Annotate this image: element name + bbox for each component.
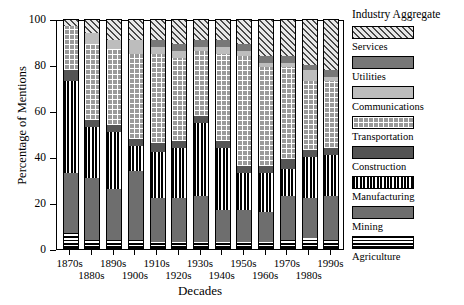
bar-segment-utilities[interactable] (171, 44, 187, 51)
bar-segment-construction[interactable] (106, 125, 122, 132)
bar-segment-services[interactable] (84, 19, 100, 33)
bar-segment-agriculture[interactable] (302, 238, 318, 250)
bar-segment-transportation[interactable] (171, 58, 187, 141)
bar-segment-communications[interactable] (323, 77, 339, 82)
bar-segment-communications[interactable] (171, 51, 187, 58)
bar-segment-services[interactable] (215, 19, 231, 40)
bar-segment-construction[interactable] (128, 139, 144, 146)
bar-segment-mining[interactable] (150, 198, 166, 242)
bar-segment-transportation[interactable] (193, 51, 209, 115)
bar-segment-transportation[interactable] (258, 67, 274, 166)
bar-segment-manufacturing[interactable] (128, 146, 144, 171)
bar-segment-services[interactable] (323, 19, 339, 70)
bar-1990s[interactable] (323, 21, 339, 249)
bar-segment-mining[interactable] (171, 198, 187, 242)
bar-segment-manufacturing[interactable] (106, 132, 122, 190)
bar-1980s[interactable] (302, 21, 318, 249)
bar-segment-transportation[interactable] (150, 54, 166, 144)
bar-segment-services[interactable] (128, 19, 144, 40)
bar-1890s[interactable] (106, 21, 122, 249)
bar-segment-transportation[interactable] (84, 44, 100, 120)
bar-segment-transportation[interactable] (236, 56, 252, 166)
bar-segment-communications[interactable] (84, 33, 100, 45)
bar-segment-construction[interactable] (280, 159, 296, 168)
bar-segment-transportation[interactable] (215, 54, 231, 141)
legend-item-transportation[interactable]: Transportation (352, 116, 462, 143)
bar-segment-services[interactable] (150, 19, 166, 40)
bar-segment-services[interactable] (302, 19, 318, 65)
bar-segment-utilities[interactable] (258, 56, 274, 63)
bar-segment-services[interactable] (236, 19, 252, 44)
bar-segment-communications[interactable] (150, 47, 166, 54)
bar-segment-mining[interactable] (280, 196, 296, 240)
bar-segment-transportation[interactable] (63, 26, 79, 70)
bar-segment-mining[interactable] (236, 210, 252, 242)
bar-segment-agriculture[interactable] (215, 242, 231, 249)
bar-segment-agriculture[interactable] (106, 240, 122, 249)
bar-segment-communications[interactable] (128, 40, 144, 54)
bar-segment-transportation[interactable] (106, 49, 122, 125)
legend-item-agriculture[interactable]: Agriculture (352, 236, 462, 263)
bar-segment-manufacturing[interactable] (280, 169, 296, 197)
bar-segment-services[interactable] (106, 19, 122, 40)
bar-segment-agriculture[interactable] (63, 233, 79, 249)
bar-segment-agriculture[interactable] (236, 242, 252, 249)
legend-item-mining[interactable]: Mining (352, 206, 462, 233)
bar-1900s[interactable] (128, 21, 144, 249)
bar-segment-communications[interactable] (302, 70, 318, 82)
bar-segment-manufacturing[interactable] (215, 148, 231, 210)
bar-1970s[interactable] (280, 21, 296, 249)
bar-segment-communications[interactable] (193, 47, 209, 52)
bar-segment-construction[interactable] (236, 166, 252, 173)
bar-segment-construction[interactable] (258, 166, 274, 173)
bar-segment-mining[interactable] (63, 173, 79, 233)
bar-1950s[interactable] (236, 21, 252, 249)
bar-segment-manufacturing[interactable] (63, 81, 79, 173)
bar-segment-mining[interactable] (128, 171, 144, 240)
bar-segment-transportation[interactable] (128, 54, 144, 139)
bar-segment-utilities[interactable] (150, 40, 166, 47)
bar-segment-manufacturing[interactable] (258, 173, 274, 212)
bar-1880s[interactable] (84, 21, 100, 249)
bar-segment-services[interactable] (193, 19, 209, 40)
bar-segment-transportation[interactable] (302, 81, 318, 150)
bar-segment-utilities[interactable] (280, 56, 296, 63)
bar-segment-construction[interactable] (193, 116, 209, 123)
bar-1910s[interactable] (150, 21, 166, 249)
bar-segment-manufacturing[interactable] (236, 173, 252, 210)
bar-segment-communications[interactable] (106, 40, 122, 49)
bar-segment-construction[interactable] (215, 141, 231, 148)
bar-segment-services[interactable] (258, 19, 274, 56)
legend-item-services[interactable]: Services (352, 26, 462, 53)
bar-segment-transportation[interactable] (280, 67, 296, 159)
bar-segment-utilities[interactable] (236, 44, 252, 51)
bar-1870s[interactable] (63, 21, 79, 249)
bar-segment-agriculture[interactable] (193, 242, 209, 249)
bar-segment-services[interactable] (171, 19, 187, 44)
bar-segment-communications[interactable] (236, 51, 252, 56)
bar-segment-agriculture[interactable] (323, 240, 339, 249)
legend-item-manufacturing[interactable]: Manufacturing (352, 176, 462, 203)
bar-segment-mining[interactable] (302, 198, 318, 237)
legend-item-utilities[interactable]: Utilities (352, 56, 462, 83)
legend-item-construction[interactable]: Construction (352, 146, 462, 173)
bar-segment-services[interactable] (63, 19, 79, 26)
bar-segment-construction[interactable] (150, 143, 166, 152)
bar-segment-agriculture[interactable] (258, 242, 274, 249)
bar-segment-mining[interactable] (323, 196, 339, 240)
bar-segment-communications[interactable] (280, 63, 296, 68)
bar-segment-agriculture[interactable] (280, 240, 296, 249)
bar-segment-agriculture[interactable] (84, 240, 100, 249)
bar-segment-construction[interactable] (84, 120, 100, 127)
bar-segment-utilities[interactable] (193, 40, 209, 47)
bar-segment-manufacturing[interactable] (150, 152, 166, 198)
bar-segment-manufacturing[interactable] (323, 155, 339, 196)
bar-segment-manufacturing[interactable] (171, 148, 187, 199)
bar-segment-services[interactable] (280, 19, 296, 56)
bar-segment-utilities[interactable] (323, 70, 339, 77)
bar-segment-construction[interactable] (302, 150, 318, 157)
bar-segment-mining[interactable] (193, 196, 209, 242)
bar-segment-manufacturing[interactable] (84, 127, 100, 178)
bar-1920s[interactable] (171, 21, 187, 249)
bar-segment-utilities[interactable] (302, 65, 318, 70)
